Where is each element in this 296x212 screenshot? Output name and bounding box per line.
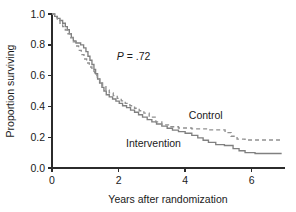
intervention-series-label: Intervention <box>126 137 181 149</box>
y-axis-tick-labels: 0.00.20.40.60.81.0 <box>30 8 45 174</box>
y-tick-label: 0.2 <box>30 131 45 143</box>
intervention-curve <box>52 14 282 154</box>
x-tick-label: 0 <box>49 174 55 186</box>
control-curve <box>52 14 282 140</box>
x-tick-label: 2 <box>116 174 122 186</box>
plot-annotations: Intervention Control P = .72 <box>117 50 223 149</box>
y-tick-label: 0.8 <box>30 38 45 50</box>
control-series-label: Control <box>189 109 223 121</box>
y-axis-title: Proportion surviving <box>4 44 16 137</box>
y-tick-label: 1.0 <box>30 8 45 20</box>
survival-plot-svg: 0.00.20.40.60.81.0 0246 Intervention Con… <box>0 0 296 212</box>
y-tick-label: 0.0 <box>30 162 45 174</box>
x-tick-label: 6 <box>249 174 255 186</box>
x-axis-tick-labels: 0246 <box>49 174 255 186</box>
x-axis-title: Years after randomization <box>108 193 227 205</box>
survival-curve-figure: 0.00.20.40.60.81.0 0246 Intervention Con… <box>0 0 296 212</box>
x-tick-label: 4 <box>182 174 188 186</box>
y-tick-label: 0.4 <box>30 100 45 112</box>
plot-series <box>52 14 282 154</box>
y-tick-label: 0.6 <box>30 69 45 81</box>
p-value-annotation: P = .72 <box>117 50 151 62</box>
